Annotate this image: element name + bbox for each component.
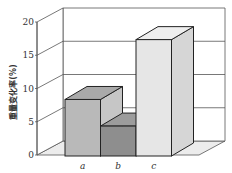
x-category-labels: abc: [80, 161, 156, 171]
y-tick-label: 0: [28, 150, 34, 160]
bar-front-face: [136, 40, 172, 156]
bar-c: [136, 27, 194, 156]
y-tick-labels: 05101520: [23, 17, 37, 160]
bar-side-face: [172, 27, 194, 156]
bar-front-face: [65, 99, 101, 156]
y-tick-label: 20: [23, 17, 35, 27]
x-category-label: b: [115, 161, 121, 171]
y-tick-label: 15: [23, 50, 35, 60]
x-category-label: a: [80, 161, 85, 171]
y-axis-label: 重量变化率(%): [8, 64, 18, 119]
x-category-label: c: [151, 161, 156, 171]
bar-chart-3d: 05101520 abc 重量变化率(%): [0, 0, 232, 173]
bar-front-face: [101, 126, 137, 156]
y-tick-label: 5: [28, 117, 34, 127]
y-tick-label: 10: [23, 84, 35, 94]
